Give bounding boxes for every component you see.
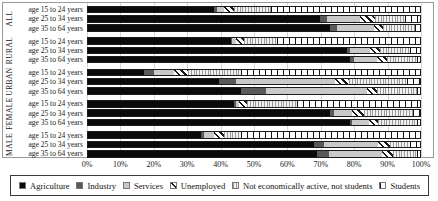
segment-industry (219, 79, 236, 85)
legend-label: Unemployed (181, 181, 225, 191)
segment-industry (314, 142, 324, 148)
group-rural: RURALage 15 to 24 yearsage 25 to 34 year… (0, 36, 438, 64)
legend-swatch-unemployed-icon (170, 182, 177, 189)
stacked-bar (87, 37, 421, 45)
group-label-text: URBAN (5, 68, 14, 96)
segment-agriculture (88, 48, 347, 54)
segment-unemployed (367, 88, 377, 94)
x-tick-label: 60% (280, 160, 295, 169)
group-label-urban: URBAN (1, 68, 18, 96)
segment-services (350, 48, 370, 54)
segment-not-economically-active-not-students (247, 101, 297, 107)
segment-industry (241, 88, 266, 94)
bar-row: age 35 to 64 years (0, 24, 438, 33)
segment-students (417, 120, 420, 126)
segment-students (241, 132, 420, 138)
segment-unemployed (224, 7, 234, 13)
segment-unemployed (335, 79, 348, 85)
group-label-male: MALE (1, 131, 18, 159)
segment-industry (320, 16, 327, 22)
bar-row: age 35 to 64 years (0, 86, 438, 95)
bar-row: age 25 to 34 years (0, 108, 438, 117)
segment-agriculture (88, 142, 314, 148)
legend-label: Students (390, 181, 420, 191)
segment-not-economically-active-not-students (224, 132, 241, 138)
segment-not-economically-active-not-students (349, 79, 407, 85)
segment-agriculture (88, 25, 330, 31)
segment-not-economically-active-not-students (378, 120, 416, 126)
segment-agriculture (88, 70, 144, 76)
x-tick-label: 40% (213, 160, 228, 169)
segment-not-economically-active-not-students (234, 7, 271, 13)
stacked-bar-chart: ALLage 15 to 24 yearsage 25 to 34 yearsa… (0, 0, 438, 201)
segment-agriculture (88, 110, 330, 116)
x-tick-label: 10% (113, 160, 128, 169)
group-urban: URBANage 15 to 24 yearsage 25 to 34 year… (0, 68, 438, 96)
legend-item-students: Students (379, 181, 420, 191)
group-label-text: ALL (5, 11, 14, 27)
segment-agriculture (88, 79, 219, 85)
legend-swatch-services-icon (123, 182, 130, 189)
segment-agriculture (88, 38, 231, 44)
segment-agriculture (88, 88, 241, 94)
stacked-bar (87, 47, 421, 55)
segment-industry (317, 151, 329, 157)
group-label-female: FEMALE (1, 99, 18, 127)
stacked-bar (87, 131, 421, 139)
segment-not-economically-active-not-students (387, 57, 417, 63)
segment-agriculture (88, 120, 350, 126)
x-tick-label: 0% (82, 160, 93, 169)
segment-services (154, 70, 174, 76)
segment-students (407, 79, 420, 85)
legend-label: Services (134, 181, 163, 191)
segment-not-economically-active-not-students (188, 70, 241, 76)
segment-students (417, 88, 420, 94)
segment-unemployed (360, 16, 375, 22)
legend: AgricultureIndustryServicesUnemployedNot… (10, 175, 429, 196)
bar-row: age 35 to 64 years (0, 55, 438, 64)
bar-groups: ALLage 15 to 24 yearsage 25 to 34 yearsa… (0, 5, 438, 162)
group-label-text: FEMALE (5, 97, 14, 129)
segment-services (266, 88, 367, 94)
group-male: MALEage 15 to 24 yearsage 25 to 34 years… (0, 131, 438, 159)
segment-services (236, 79, 336, 85)
bar-row: age 25 to 34 years (0, 140, 438, 149)
bar-row: age 15 to 24 years (0, 5, 438, 14)
bar-row: age 15 to 24 years (0, 36, 438, 45)
segment-unemployed (236, 38, 244, 44)
segment-unemployed (377, 57, 387, 63)
segment-students (417, 57, 420, 63)
group-label-text: MALE (5, 133, 14, 156)
segment-industry (144, 70, 154, 76)
segment-unemployed (382, 151, 394, 157)
bar-row: age 15 to 24 years (0, 68, 438, 77)
legend-item-industry: Industry (76, 181, 116, 191)
segment-students (410, 142, 420, 148)
stacked-bar (87, 69, 421, 77)
x-tick-label: 90% (380, 160, 395, 169)
legend-item-unemployed: Unemployed (170, 181, 225, 191)
segment-students (271, 7, 420, 13)
segment-unemployed (374, 25, 384, 31)
x-tick-label: 30% (180, 160, 195, 169)
segment-services (217, 7, 224, 13)
x-tick-label: 80% (347, 160, 362, 169)
legend-swatch-not-economically-active-not-students-icon (232, 182, 239, 189)
segment-services (324, 142, 379, 148)
legend-item-services: Services (123, 181, 163, 191)
segment-students (241, 70, 420, 76)
stacked-bar (87, 87, 421, 95)
bar-row: age 35 to 64 years (0, 118, 438, 127)
segment-services (334, 110, 352, 116)
legend-swatch-students-icon (379, 182, 386, 189)
x-tick-label: 100% (412, 160, 431, 169)
segment-students (297, 101, 420, 107)
segment-unemployed (214, 132, 224, 138)
segment-unemployed (378, 142, 390, 148)
group-female: FEMALEage 15 to 24 yearsage 25 to 34 yea… (0, 99, 438, 127)
stacked-bar (87, 109, 421, 117)
stacked-bar (87, 100, 421, 108)
segment-unemployed (239, 101, 247, 107)
segment-services (337, 25, 374, 31)
segment-agriculture (88, 132, 201, 138)
